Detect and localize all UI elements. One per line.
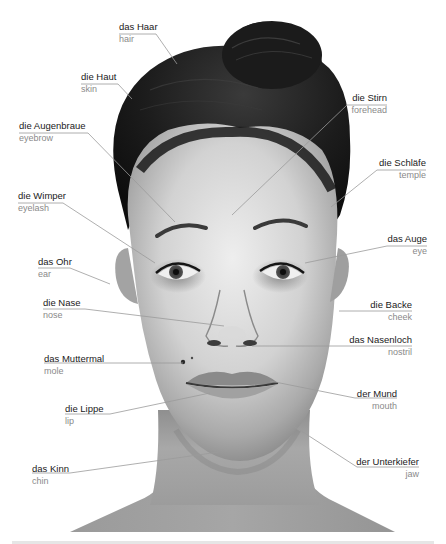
label-nostril: das Nasenlochnostril [349,334,412,358]
label-eyebrow: die Augenbraueeyebrow [19,120,86,144]
face [115,123,349,461]
label-jaw: der Unterkieferjaw [356,456,419,480]
label-cheek: die Backecheek [370,299,412,323]
label-chin: das Kinnchin [32,463,69,487]
freckle [191,357,193,359]
label-nose: die Nasenose [43,297,81,321]
label-mole: das Muttermalmole [44,353,104,377]
label-lip: die Lippelip [65,403,104,427]
face-diagram: das Haarhair die Hautskin die Augenbraue… [0,0,446,544]
label-skin: die Hautskin [81,71,116,95]
label-eyelash: die Wimpereyelash [18,190,66,214]
label-mouth: der Mundmouth [357,388,397,412]
label-temple: die Schläfetemple [379,157,426,181]
label-hair: das Haarhair [119,21,158,45]
mole [181,360,185,364]
label-ear: das Ohrear [38,256,72,280]
label-forehead: die Stirnforehead [351,92,387,116]
label-eye: das Augeeye [387,233,427,257]
